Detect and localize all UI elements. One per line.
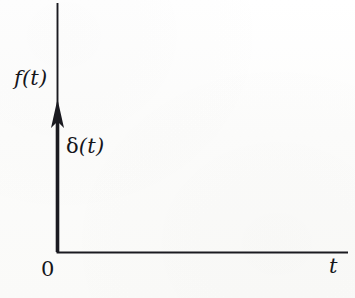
plot-canvas	[0, 0, 355, 298]
impulse-label: δ(t)	[66, 136, 104, 157]
x-axis-label: t	[329, 256, 337, 277]
delta-glyph: δ	[66, 134, 79, 158]
delta-argument: (t)	[79, 134, 104, 158]
origin-label: 0	[41, 259, 54, 280]
delta-function-figure: f(t) δ(t) 0 t	[0, 0, 355, 298]
y-axis-label: f(t)	[14, 68, 47, 89]
